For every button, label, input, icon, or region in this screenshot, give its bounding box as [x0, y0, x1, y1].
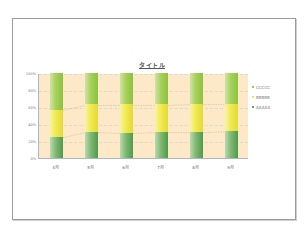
legend-item-aaaaa: AAAAA: [252, 102, 270, 112]
legend-swatch-icon: [252, 106, 254, 108]
legend-label: BBBBB: [256, 95, 270, 100]
y-tick-label: 100%: [18, 72, 36, 76]
x-tick-label: 6月: [116, 164, 136, 170]
legend: CCCCC BBBBB AAAAA: [252, 82, 270, 112]
x-tick-label: 5月: [81, 164, 101, 170]
x-tick-label: 9月: [221, 164, 241, 170]
plot-area: [38, 74, 248, 159]
legend-swatch-icon: [252, 96, 254, 98]
y-tick-label: 40%: [18, 123, 36, 127]
legend-item-bbbbb: BBBBB: [252, 92, 270, 102]
x-tick-label: 7月: [151, 164, 171, 170]
legend-label: AAAAA: [256, 105, 270, 110]
legend-item-ccccc: CCCCC: [252, 82, 270, 92]
y-tick-label: 80%: [18, 89, 36, 93]
legend-swatch-icon: [252, 86, 254, 88]
x-tick-label: 8月: [186, 164, 206, 170]
y-tick-label: 0%: [18, 157, 36, 161]
y-tick-label: 60%: [18, 106, 36, 110]
series-lines: [39, 74, 249, 159]
chart-title: タイトル: [0, 60, 304, 69]
y-tick-label: 20%: [18, 140, 36, 144]
x-tick-label: 4月: [46, 164, 66, 170]
legend-label: CCCCC: [256, 85, 270, 90]
